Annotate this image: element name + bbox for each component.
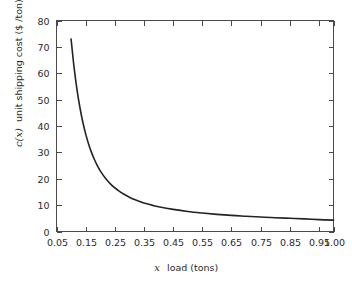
y-tick-label: 40 (37, 121, 49, 132)
x-tick-label: 0.45 (163, 237, 184, 248)
y-tick-label: 50 (37, 95, 49, 106)
y-tick-label: 70 (37, 42, 49, 53)
y-tick-label: 10 (37, 200, 49, 211)
x-tick-label: 0.25 (105, 237, 126, 248)
x-tick-label: 0.55 (192, 237, 213, 248)
x-tick-label: 0.15 (76, 237, 97, 248)
x-axis-title-symbol: x (154, 262, 160, 273)
y-axis-tick-labels: 01020304050607080 (37, 16, 49, 238)
x-tick-label: 0.75 (251, 237, 272, 248)
y-tick-label: 30 (37, 147, 49, 158)
chart-plot-area: 01020304050607080 0.050.150.250.350.450.… (0, 0, 352, 284)
y-tick-label: 20 (37, 174, 49, 185)
y-axis-title-symbol: c(x) (13, 128, 24, 147)
x-tick-label: 0.35 (134, 237, 155, 248)
x-tick-label: 0.85 (280, 237, 301, 248)
x-tick-label: 0.65 (221, 237, 242, 248)
x-tick-label: 0.05 (47, 237, 68, 248)
x-tick-label: 1.00 (324, 237, 345, 248)
x-axis-title-text: load (tons) (167, 262, 218, 273)
y-tick-label: 60 (37, 68, 49, 79)
chart-figure: 01020304050607080 0.050.150.250.350.450.… (0, 0, 352, 284)
y-tick-label: 80 (37, 16, 49, 27)
x-axis-tick-labels: 0.050.150.250.350.450.550.650.750.850.95… (47, 237, 345, 248)
y-axis-title-text: unit shipping cost ($ /ton) (13, 0, 24, 122)
